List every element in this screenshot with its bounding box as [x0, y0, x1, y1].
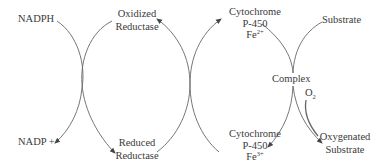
reduced-reductase-label: Reduced Reductase	[113, 137, 161, 162]
cytochrome-text: Cytochrome	[222, 128, 288, 140]
substrate-text: Substrate	[316, 144, 374, 157]
arrow-fe3-to-fe2	[190, 19, 221, 152]
oxygenated-substrate-label: Oxygenated Substrate	[316, 131, 374, 156]
arrow-reduced-to-oxidized-reductase	[157, 19, 190, 152]
p450-text: P-450	[222, 18, 288, 30]
p450-text: P-450	[222, 140, 288, 152]
cytochrome-fe2-label: Cytochrome P-450 Fe2+	[222, 6, 288, 41]
arrow-nadph-to-nadp	[55, 21, 83, 143]
fe2-text: Fe2+	[222, 29, 288, 41]
complex-label: Complex	[272, 73, 311, 86]
nadph-text: NADPH	[18, 13, 54, 24]
oxidized-reductase-label: Oxidized Reductase	[113, 8, 161, 33]
o-text: O	[305, 87, 313, 98]
cytochrome-fe3-label: Cytochrome P-450 Fe3+	[222, 128, 288, 163]
arrow-oxidized-to-reduced-reductase	[82, 21, 115, 153]
reduced-text: Reduced	[113, 137, 161, 150]
o2-subscript: 2	[313, 93, 316, 100]
substrate-label: Substrate	[322, 14, 361, 27]
p450-cycle-diagram: NADPH NADP + Oxidized Reductase Reduced …	[0, 0, 386, 168]
cytochrome-text: Cytochrome	[222, 6, 288, 18]
arrow-substrate-to-complex	[293, 22, 322, 73]
oxygenated-text: Oxygenated	[316, 131, 374, 144]
nadph-label: NADPH	[18, 13, 54, 26]
nadp-plus-label: NADP +	[18, 136, 55, 149]
oxidized-text: Oxidized	[113, 8, 161, 21]
complex-text: Complex	[272, 73, 311, 84]
reductase-text: Reductase	[113, 150, 161, 163]
substrate-text: Substrate	[322, 14, 361, 25]
fe3-text: Fe3+	[222, 151, 288, 163]
nadp-plus-text: NADP +	[18, 136, 55, 147]
reductase-text: Reductase	[113, 21, 161, 34]
o2-label: O2	[305, 87, 316, 100]
